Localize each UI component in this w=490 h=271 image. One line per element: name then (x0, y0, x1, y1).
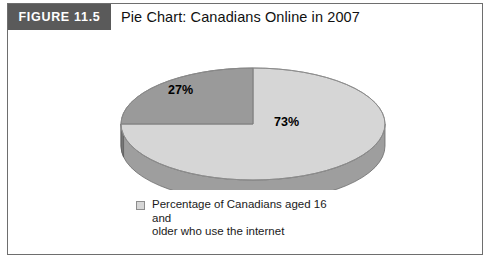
legend-label-line-2: older who use the internet (152, 225, 284, 237)
figure-number-label: FIGURE 11.5 (18, 10, 100, 24)
chart-legend: Percentage of Canadians aged 16 and olde… (136, 198, 340, 239)
pie-label-27: 27% (168, 83, 193, 97)
legend-item-label: Percentage of Canadians aged 16 and olde… (152, 198, 340, 239)
pie-chart: 27% 73% (106, 58, 386, 190)
figure-title: Pie Chart: Canadians Online in 2007 (121, 4, 360, 30)
figure-frame: FIGURE 11.5 Pie Chart: Canadians Online … (7, 3, 483, 255)
chart-area: 27% 73% Percentage of Canadians aged 16 … (8, 30, 482, 254)
figure-number-badge: FIGURE 11.5 (8, 4, 111, 30)
pie-chart-graphic (106, 58, 386, 190)
pie-label-73: 73% (274, 115, 299, 129)
legend-swatch-icon (136, 201, 145, 210)
legend-label-line-1: Percentage of Canadians aged 16 and (152, 198, 327, 224)
